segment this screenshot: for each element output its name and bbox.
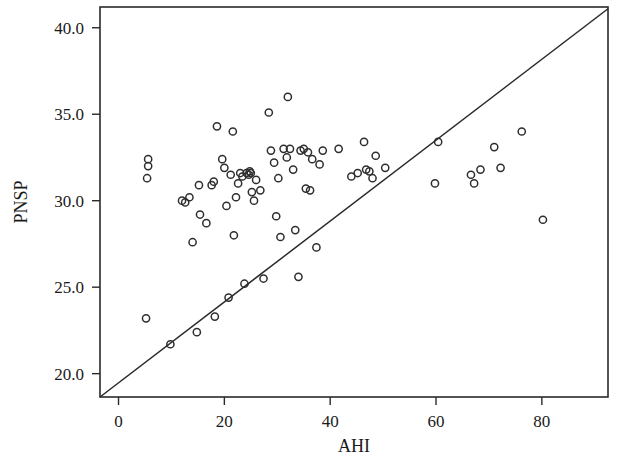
data-point-marker <box>195 182 202 189</box>
data-point-marker <box>229 128 236 135</box>
data-point-marker <box>354 169 361 176</box>
data-point-marker <box>295 273 302 280</box>
data-point-marker <box>145 163 152 170</box>
y-tick-label: 25.0 <box>54 278 84 297</box>
data-point-marker <box>232 194 239 201</box>
data-point-marker <box>257 187 264 194</box>
data-point-marker <box>235 180 242 187</box>
data-point-marker <box>248 188 255 195</box>
data-point-marker <box>360 138 367 145</box>
data-point-marker <box>260 275 267 282</box>
data-point-marker <box>335 145 342 152</box>
data-point-marker <box>265 109 272 116</box>
data-point-marker <box>142 315 149 322</box>
data-point-marker <box>213 123 220 130</box>
data-point-marker <box>223 202 230 209</box>
y-tick-label: 30.0 <box>54 192 84 211</box>
y-axis-tick-labels: 20.025.030.035.040.0 <box>54 19 84 384</box>
data-point-marker <box>186 194 193 201</box>
x-tick-label: 80 <box>533 412 550 431</box>
data-point-marker <box>497 164 504 171</box>
data-point-marker <box>145 156 152 163</box>
data-point-marker <box>253 176 260 183</box>
data-point-marker <box>431 180 438 187</box>
data-point-marker <box>144 175 151 182</box>
reference-line <box>100 9 608 397</box>
x-axis-ticks <box>119 397 542 405</box>
data-point-marker <box>275 175 282 182</box>
y-axis-title: PNSP <box>11 180 31 223</box>
data-point-marker <box>227 171 234 178</box>
data-point-marker <box>471 180 478 187</box>
data-point-marker <box>211 313 218 320</box>
data-point-marker <box>313 244 320 251</box>
data-point-marker <box>267 147 274 154</box>
data-point-marker <box>477 166 484 173</box>
data-point-marker <box>271 159 278 166</box>
data-point-marker <box>309 156 316 163</box>
y-tick-label: 20.0 <box>54 365 84 384</box>
data-point-marker <box>292 227 299 234</box>
data-point-marker <box>283 154 290 161</box>
data-point-marker <box>372 152 379 159</box>
data-point-marker <box>189 239 196 246</box>
data-point-marker <box>382 164 389 171</box>
data-point-marker <box>273 213 280 220</box>
reference-line-segment <box>100 9 608 397</box>
y-axis-ticks <box>92 28 100 374</box>
x-tick-label: 60 <box>428 412 445 431</box>
data-point-marker <box>221 164 228 171</box>
x-axis-title: AHI <box>338 436 370 456</box>
data-point-marker <box>193 329 200 336</box>
x-tick-label: 20 <box>216 412 233 431</box>
plot-canvas: 20.025.030.035.040.0 020406080 PNSP AHI <box>0 0 622 458</box>
data-point-marker <box>467 171 474 178</box>
data-point-marker <box>518 128 525 135</box>
y-tick-label: 40.0 <box>54 19 84 38</box>
data-point-marker <box>230 232 237 239</box>
data-point-marker <box>219 156 226 163</box>
data-point-marker <box>277 233 284 240</box>
data-point-marker <box>196 211 203 218</box>
scatter-plot-figure: 20.025.030.035.040.0 020406080 PNSP AHI <box>0 0 622 458</box>
data-point-marker <box>203 220 210 227</box>
x-axis-tick-labels: 020406080 <box>114 412 550 431</box>
data-point-marker <box>316 161 323 168</box>
data-point-marker <box>250 197 257 204</box>
y-tick-label: 35.0 <box>54 105 84 124</box>
data-point-marker <box>284 93 291 100</box>
data-point-marker <box>319 147 326 154</box>
x-tick-label: 0 <box>114 412 123 431</box>
x-tick-label: 40 <box>322 412 339 431</box>
data-point-marker <box>369 175 376 182</box>
data-point-marker <box>539 216 546 223</box>
data-point-marker <box>491 143 498 150</box>
data-point-marker <box>290 166 297 173</box>
data-points <box>142 93 546 348</box>
